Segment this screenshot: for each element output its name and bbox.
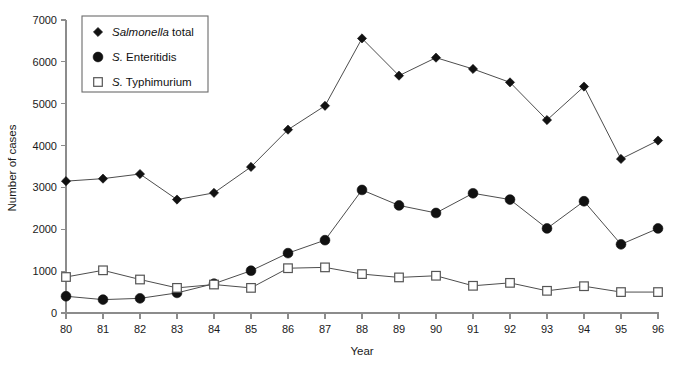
y-tick-label: 4000 bbox=[33, 140, 57, 152]
x-axis-ticks: 8081828384858687888990919293949596 bbox=[60, 313, 664, 335]
data-point-diamond bbox=[209, 188, 218, 197]
series-2 bbox=[61, 185, 663, 304]
x-tick-label: 88 bbox=[356, 323, 368, 335]
x-tick-label: 84 bbox=[208, 323, 220, 335]
x-axis-title: Year bbox=[350, 345, 373, 357]
series-3 bbox=[62, 263, 663, 296]
data-point-square bbox=[247, 284, 256, 293]
data-point-square bbox=[395, 273, 404, 282]
data-point-circle bbox=[431, 208, 441, 218]
y-axis-ticks: 01000200030004000500060007000 bbox=[33, 14, 66, 319]
data-point-square bbox=[469, 281, 478, 290]
data-point-square bbox=[210, 280, 219, 289]
y-tick-label: 1000 bbox=[33, 265, 57, 277]
data-point-circle bbox=[468, 188, 478, 198]
legend-item-label: S. Enteritidis bbox=[112, 51, 177, 63]
data-point-square bbox=[321, 263, 330, 272]
data-point-diamond bbox=[468, 64, 477, 73]
data-point-diamond bbox=[653, 136, 662, 145]
data-point-circle bbox=[653, 224, 663, 234]
data-point-diamond bbox=[135, 169, 144, 178]
x-tick-label: 96 bbox=[652, 323, 664, 335]
data-point-circle bbox=[616, 239, 626, 249]
data-point-circle bbox=[61, 291, 71, 301]
y-tick-label: 3000 bbox=[33, 181, 57, 193]
y-axis-title: Number of cases bbox=[6, 124, 18, 211]
x-tick-label: 81 bbox=[97, 323, 109, 335]
y-tick-label: 0 bbox=[51, 307, 57, 319]
data-point-diamond bbox=[61, 177, 70, 186]
x-tick-label: 90 bbox=[430, 323, 442, 335]
data-point-square bbox=[617, 288, 626, 297]
data-point-square bbox=[173, 284, 182, 293]
data-point-circle bbox=[579, 196, 589, 206]
data-point-diamond bbox=[616, 154, 625, 163]
y-tick-label: 7000 bbox=[33, 14, 57, 26]
x-tick-label: 93 bbox=[541, 323, 553, 335]
x-tick-label: 89 bbox=[393, 323, 405, 335]
data-point-square bbox=[136, 275, 145, 284]
data-point-square bbox=[94, 78, 103, 87]
y-tick-label: 2000 bbox=[33, 223, 57, 235]
x-tick-label: 83 bbox=[171, 323, 183, 335]
x-tick-label: 95 bbox=[615, 323, 627, 335]
data-point-square bbox=[543, 287, 552, 296]
y-tick-label: 6000 bbox=[33, 56, 57, 68]
chart-container: 01000200030004000500060007000 8081828384… bbox=[0, 0, 676, 368]
data-point-square bbox=[284, 264, 293, 273]
x-tick-label: 85 bbox=[245, 323, 257, 335]
x-tick-label: 92 bbox=[504, 323, 516, 335]
y-tick-label: 5000 bbox=[33, 98, 57, 110]
x-tick-label: 94 bbox=[578, 323, 590, 335]
data-point-circle bbox=[505, 195, 515, 205]
data-point-circle bbox=[394, 201, 404, 211]
data-point-circle bbox=[93, 52, 103, 62]
data-point-diamond bbox=[98, 174, 107, 183]
legend-item-label: S. Typhimurium bbox=[112, 76, 192, 88]
data-point-diamond bbox=[431, 53, 440, 62]
legend-item-label: Salmonella total bbox=[112, 26, 194, 38]
data-point-circle bbox=[135, 293, 145, 303]
data-point-square bbox=[358, 270, 367, 279]
data-point-square bbox=[506, 279, 515, 288]
data-point-square bbox=[432, 271, 441, 280]
data-point-square bbox=[580, 282, 589, 291]
x-tick-label: 91 bbox=[467, 323, 479, 335]
chart-legend: Salmonella totalS. EnteritidisS. Typhimu… bbox=[82, 16, 208, 92]
data-point-circle bbox=[542, 224, 552, 234]
data-point-circle bbox=[320, 235, 330, 245]
data-point-diamond bbox=[172, 195, 181, 204]
x-tick-label: 87 bbox=[319, 323, 331, 335]
x-tick-label: 82 bbox=[134, 323, 146, 335]
data-point-diamond bbox=[320, 101, 329, 110]
data-point-square bbox=[62, 273, 71, 282]
x-tick-label: 80 bbox=[60, 323, 72, 335]
data-point-circle bbox=[283, 248, 293, 258]
data-point-square bbox=[654, 288, 663, 297]
data-point-circle bbox=[357, 185, 367, 195]
data-point-circle bbox=[98, 295, 108, 305]
data-point-circle bbox=[246, 266, 256, 276]
x-tick-label: 86 bbox=[282, 323, 294, 335]
chart-plot-area: 01000200030004000500060007000 8081828384… bbox=[0, 0, 676, 368]
data-point-square bbox=[99, 266, 108, 275]
